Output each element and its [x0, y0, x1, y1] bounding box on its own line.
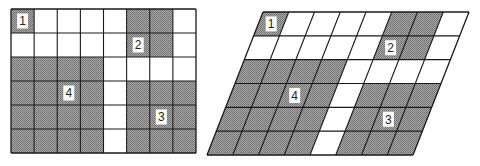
- shaded-cell: [80, 81, 103, 105]
- empty-cell: [34, 9, 57, 33]
- empty-cell: [104, 33, 127, 57]
- region-label-text: 2: [135, 38, 142, 52]
- region-label-text: 2: [387, 41, 394, 55]
- shaded-cell: [11, 57, 34, 81]
- empty-cell: [173, 33, 196, 57]
- region-label-3: 3: [156, 110, 167, 125]
- region-label-1: 1: [266, 16, 277, 31]
- empty-cell: [150, 57, 173, 81]
- region-label-1: 1: [17, 14, 28, 29]
- shaded-cell: [80, 129, 103, 153]
- shaded-cell: [127, 81, 150, 105]
- shaded-cell: [80, 57, 103, 81]
- empty-cell: [34, 33, 57, 57]
- shaded-cell: [34, 105, 57, 129]
- region-label-text: 1: [268, 17, 275, 31]
- rectangle-grid: 1234: [11, 9, 196, 153]
- grid-diagram: 1234 1234: [0, 0, 480, 166]
- shaded-cell: [150, 9, 173, 33]
- empty-cell: [57, 9, 80, 33]
- empty-cell: [80, 9, 103, 33]
- shaded-cell: [11, 129, 34, 153]
- empty-cell: [104, 57, 127, 81]
- shaded-cell: [34, 57, 57, 81]
- shaded-cell: [150, 33, 173, 57]
- region-label-text: 3: [158, 110, 165, 124]
- region-label-2: 2: [133, 38, 144, 53]
- empty-cell: [173, 57, 196, 81]
- shaded-cell: [34, 81, 57, 105]
- shaded-cell: [127, 105, 150, 129]
- empty-cell: [104, 81, 127, 105]
- region-label-3: 3: [383, 112, 394, 127]
- shaded-cell: [173, 81, 196, 105]
- empty-cell: [127, 57, 150, 81]
- empty-cell: [104, 129, 127, 153]
- shaded-cell: [127, 129, 150, 153]
- region-label-text: 4: [65, 86, 72, 100]
- parallelogram-grid: 1234: [207, 12, 469, 155]
- shaded-cell: [127, 9, 150, 33]
- shaded-cell: [34, 129, 57, 153]
- region-label-text: 1: [19, 14, 26, 28]
- empty-cell: [173, 9, 196, 33]
- empty-cell: [80, 33, 103, 57]
- shaded-cell: [11, 81, 34, 105]
- region-label-text: 3: [385, 113, 392, 127]
- empty-cell: [11, 33, 34, 57]
- region-label-4: 4: [289, 88, 300, 103]
- empty-cell: [57, 33, 80, 57]
- shaded-cell: [57, 57, 80, 81]
- shaded-cell: [150, 81, 173, 105]
- shaded-cell: [173, 105, 196, 129]
- shaded-cell: [57, 129, 80, 153]
- region-label-2: 2: [385, 40, 396, 55]
- empty-cell: [104, 105, 127, 129]
- shaded-cell: [150, 129, 173, 153]
- shaded-cell: [11, 105, 34, 129]
- shaded-cell: [173, 129, 196, 153]
- shaded-cell: [57, 105, 80, 129]
- region-label-text: 4: [291, 89, 298, 103]
- shaded-cell: [80, 105, 103, 129]
- empty-cell: [104, 9, 127, 33]
- region-label-4: 4: [63, 86, 74, 101]
